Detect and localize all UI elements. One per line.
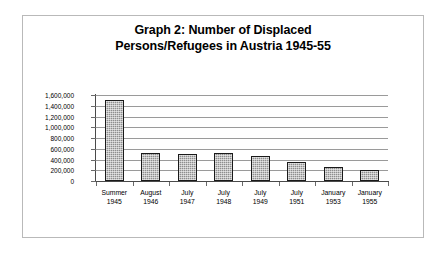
bar (105, 100, 124, 181)
bar (251, 156, 270, 181)
chart-title: Graph 2: Number of Displaced Persons/Ref… (22, 22, 424, 54)
chart-title-line-1: Graph 2: Number of Displaced (134, 23, 311, 37)
x-axis-category-label-line: January (315, 188, 352, 197)
x-axis-category-label-line: 1951 (279, 197, 316, 206)
x-axis-tick (242, 182, 243, 186)
y-axis-tick (91, 127, 96, 128)
x-axis-tick (388, 182, 389, 186)
bar (141, 153, 160, 181)
bar (324, 167, 343, 181)
gridline (96, 117, 388, 118)
gridline (96, 95, 388, 96)
y-axis-tick (91, 138, 96, 139)
x-axis-tick (315, 182, 316, 186)
bar (214, 153, 233, 181)
x-axis-category-label-line: 1945 (96, 197, 133, 206)
y-axis-tick-label: 1,600,000 (45, 92, 74, 99)
gridline (96, 170, 388, 171)
gridline (96, 160, 388, 161)
chart-title-line-2: Persons/Refugees in Austria 1945-55 (22, 38, 424, 54)
x-axis-tick (133, 182, 134, 186)
x-axis-category-label-line: July (169, 188, 206, 197)
x-axis-category-label-line: January (352, 188, 389, 197)
gridline (96, 106, 388, 107)
gridline (96, 149, 388, 150)
x-axis-category-label: July1947 (169, 188, 206, 206)
y-axis-tick (91, 106, 96, 107)
x-axis-category-label-line: August (133, 188, 170, 197)
x-axis-category-label-line: 1955 (352, 197, 389, 206)
y-axis-tick (91, 170, 96, 171)
x-axis-category-label: January1953 (315, 188, 352, 206)
x-axis-category-label-line: 1947 (169, 197, 206, 206)
y-axis-tick (91, 117, 96, 118)
x-axis-category-label: July1949 (242, 188, 279, 206)
x-axis-tick (352, 182, 353, 186)
x-axis-category-label-line: 1948 (206, 197, 243, 206)
x-axis-category-label: July1951 (279, 188, 316, 206)
gridline (96, 138, 388, 139)
x-axis-tick (206, 182, 207, 186)
gridline (96, 127, 388, 128)
x-axis-category-label-line: July (279, 188, 316, 197)
y-axis-tick-label: 600,000 (51, 145, 75, 152)
x-axis-category-label-line: 1949 (242, 197, 279, 206)
bar (178, 154, 197, 181)
x-axis-category-label: August1946 (133, 188, 170, 206)
x-axis-category-label-line: 1953 (315, 197, 352, 206)
y-axis-tick (91, 160, 96, 161)
y-axis-tick-label: 1,200,000 (45, 113, 74, 120)
x-axis-category-label-line: 1946 (133, 197, 170, 206)
x-axis-category-label: January1955 (352, 188, 389, 206)
y-axis-tick-label: 1,400,000 (45, 102, 74, 109)
y-axis-tick (91, 149, 96, 150)
y-axis-tick-label: 800,000 (51, 135, 75, 142)
x-axis-category-label: Summer1945 (96, 188, 133, 206)
x-axis-tick (96, 182, 97, 186)
bar (287, 162, 306, 181)
x-axis-category-label-line: July (242, 188, 279, 197)
y-axis-tick-label: 400,000 (51, 156, 75, 163)
x-axis-category-label: July1948 (206, 188, 243, 206)
figure-root: Graph 2: Number of Displaced Persons/Ref… (0, 0, 447, 253)
x-axis-tick (279, 182, 280, 186)
y-axis-tick-labels: 1,600,0001,400,0001,200,0001,000,000800,… (22, 90, 74, 186)
plot-area (96, 95, 388, 181)
y-axis-tick-label: 1,000,000 (45, 124, 74, 131)
y-axis-tick-label: 200,000 (51, 167, 75, 174)
y-axis-tick-label: 0 (70, 178, 74, 185)
x-axis-category-label-line: Summer (96, 188, 133, 197)
y-axis-tick (91, 95, 96, 96)
bar (360, 170, 379, 181)
x-axis-category-label-line: July (206, 188, 243, 197)
x-axis-tick (169, 182, 170, 186)
